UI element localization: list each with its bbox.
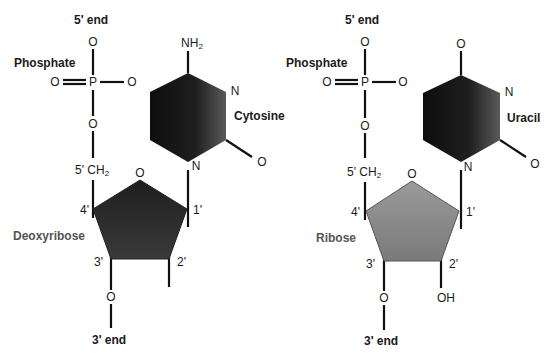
left-c2-label: 2' [177,256,186,268]
right-c3-label: 3' [366,258,375,270]
right-phosphate-oxygen-double: O [322,76,331,88]
nucleotide-comparison-diagram: 5' end Phosphate O O P O O 5' CH2 O 4' 1… [0,0,552,356]
right-phosphorus-atom: P [361,76,369,88]
left-phosphate-oxygen-bridge: O [88,118,97,130]
right-five-prime-end-label: 5' end [345,14,379,26]
left-c1-label: 1' [193,204,202,216]
deoxyribose-label: Deoxyribose [13,230,85,242]
uracil-n1: N [464,161,473,173]
right-three-prime-end-label: 3' end [364,335,398,347]
left-c3-label: 3' [94,256,103,268]
uracil-n3: N [505,86,514,98]
deoxyribose-ring [93,180,187,259]
ribose-ring [366,181,459,261]
uracil-c4-oxygen: O [456,38,465,50]
left-phosphate-oxygen-top: O [88,36,97,48]
cytosine-n3: N [231,85,240,97]
uracil-carbonyl-oxygen: O [530,158,539,170]
left-phosphate-label: Phosphate [14,57,75,69]
left-three-prime-end-label: 3' end [92,334,126,346]
left-five-prime-end-label: 5' end [74,14,108,26]
right-ring-oxygen: O [407,168,416,180]
right-phosphate-label: Phosphate [286,57,347,69]
cytosine-n1: N [192,160,201,172]
right-ch2-label: 5' CH2 [347,166,381,178]
left-phosphate-oxygen-right: O [127,76,136,88]
left-phosphorus-atom: P [89,76,97,88]
uracil-label: Uracil [507,112,540,124]
left-ring-oxygen: O [135,167,144,179]
right-c1-label: 1' [466,206,475,218]
cytosine-label: Cytosine [234,110,285,122]
cytosine-amino-group: NH2 [181,37,203,49]
right-phosphate-oxygen-top: O [360,36,369,48]
left-three-prime-oxygen: O [106,291,115,303]
cytosine-ring [150,73,226,162]
uracil-ring [423,75,500,162]
right-three-prime-oxygen: O [379,292,388,304]
left-phosphate-oxygen-double: O [50,76,59,88]
right-c2-label: 2' [449,258,458,270]
cytosine-carbonyl-oxygen: O [257,156,266,168]
ribose-label: Ribose [316,232,356,244]
right-phosphate-oxygen-right: O [398,76,407,88]
left-c4-label: 4' [80,204,89,216]
bond-structure-graphics [0,0,552,356]
ribose-2-hydroxyl: OH [437,292,455,304]
left-ch2-label: 5' CH2 [75,164,109,176]
right-phosphate-oxygen-bridge: O [360,120,369,132]
right-c4-label: 4' [351,206,360,218]
